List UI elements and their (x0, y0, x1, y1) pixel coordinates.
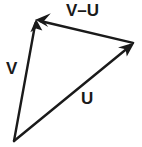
vector-diagram: V U V–U (0, 0, 142, 147)
vector-v-shaft (14, 24, 35, 142)
vector-u-arrow (14, 43, 135, 142)
vector-u-shaft (14, 46, 131, 141)
vector-label-v: V (6, 60, 17, 77)
vector-label-v-minus-u: V–U (66, 2, 99, 19)
vector-v-minus-u-shaft (40, 21, 133, 43)
vector-label-u: U (81, 90, 93, 107)
vector-triangle-svg (0, 0, 142, 147)
